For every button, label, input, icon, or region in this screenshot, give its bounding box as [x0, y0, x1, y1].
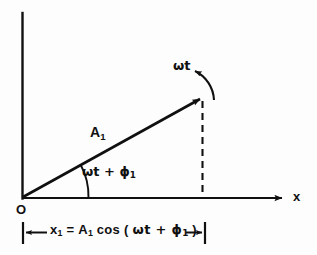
equation-phi-symbol: ϕ: [172, 222, 183, 237]
amplitude-symbol: A: [90, 124, 100, 140]
phase-angle-label: ωt + ϕ1: [82, 165, 136, 180]
phi-subscript: 1: [130, 170, 136, 180]
x-axis-text: x: [293, 189, 300, 204]
x-axis-label: x: [293, 190, 300, 203]
equation-amplitude: A: [78, 222, 88, 237]
equation-lhs: x: [50, 222, 58, 237]
angular-rotation-label: ωt: [173, 59, 191, 72]
phasor-vector: [23, 99, 200, 197]
equation-argument-prefix: ωt +: [133, 222, 172, 237]
amplitude-subscript: 1: [100, 131, 105, 142]
equation-function: cos: [97, 222, 120, 237]
origin-text: O: [16, 202, 26, 217]
origin-label: O: [16, 203, 26, 216]
projection-equation: x1 = A1 cos ( ωt + ϕ1 ): [50, 223, 197, 238]
phase-angle-prefix: ωt +: [82, 164, 119, 179]
phasor-diagram: ωt A1 ωt + ϕ1 O x x1 = A1 cos ( ωt + ϕ1 …: [0, 0, 317, 255]
diagram-canvas: [0, 0, 317, 255]
omega-t-text: ωt: [173, 58, 191, 73]
equation-close-paren: ): [192, 222, 197, 237]
phi-symbol: ϕ: [119, 164, 129, 179]
rotation-arc-arrow: [195, 71, 214, 100]
amplitude-label: A1: [90, 125, 105, 141]
